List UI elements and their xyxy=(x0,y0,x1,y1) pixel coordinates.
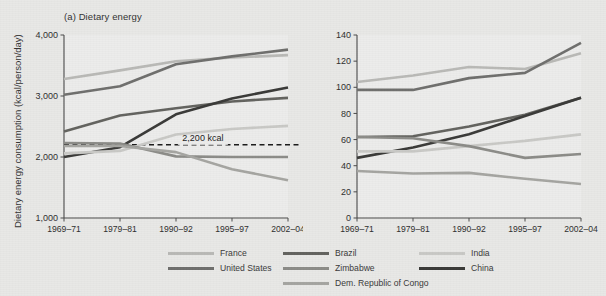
x-tick-label: 1995–97 xyxy=(508,224,542,234)
y-tick-label: 120 xyxy=(336,56,351,66)
chart-legend: FranceUnited States BrazilZimbabweDem. R… xyxy=(0,246,606,296)
x-tick-label: 1969–71 xyxy=(47,224,81,234)
x-tick-label: 1995–97 xyxy=(215,224,249,234)
legend-column-1: BrazilZimbabweDem. Republic of Congo xyxy=(283,246,429,291)
legend-item-label: China xyxy=(471,264,493,273)
x-tick-label: 2002–04 xyxy=(271,224,303,234)
legend-swatch-line-icon xyxy=(419,252,465,255)
y-tick-label: 1,000 xyxy=(35,213,58,223)
y-tick-label: 80 xyxy=(341,109,351,119)
y-tick-label: 140 xyxy=(336,30,351,40)
legend-item[interactable]: India xyxy=(419,246,493,260)
y-tick-label: 2,000 xyxy=(35,152,58,162)
x-tick-label: 1990–92 xyxy=(452,224,486,234)
chart-panel-dietary-energy: (a) Dietary energy Dietary energy consum… xyxy=(0,0,303,246)
legend-swatch-line-icon xyxy=(419,267,465,270)
legend-swatch-line-icon xyxy=(168,252,214,255)
x-tick-label: 1990–92 xyxy=(159,224,193,234)
y-tick-label: 4,000 xyxy=(35,30,58,40)
legend-column-0: FranceUnited States xyxy=(168,246,272,276)
legend-item-label: France xyxy=(220,249,247,258)
legend-item-label: Brazil xyxy=(335,249,357,258)
figure-root: (a) Dietary energy Dietary energy consum… xyxy=(0,0,606,296)
legend-item[interactable]: Zimbabwe xyxy=(283,261,429,275)
y-tick-label: 40 xyxy=(341,161,351,171)
legend-column-2: IndiaChina xyxy=(419,246,493,276)
legend-item-label: Zimbabwe xyxy=(335,264,375,273)
legend-item-label: United States xyxy=(220,264,272,273)
chart-panel-protein-consumption: (b) Protein consumption Protein consumpt… xyxy=(303,0,606,246)
y-tick-label: 100 xyxy=(336,82,351,92)
panel-a-plot: 1,0002,0003,0004,0001969–711979–811990–9… xyxy=(0,0,303,246)
legend-swatch-line-icon xyxy=(283,282,329,285)
legend-item-label: India xyxy=(471,249,490,258)
x-tick-label: 1979–81 xyxy=(103,224,137,234)
y-tick-label: 60 xyxy=(341,135,351,145)
panel-b-plot: 0204060801001201401969–711979–811990–921… xyxy=(303,0,606,246)
reference-line-label: 2,200 kcal xyxy=(182,133,223,143)
x-tick-label: 1979–81 xyxy=(396,224,430,234)
y-tick-label: 20 xyxy=(341,187,351,197)
legend-item-label: Dem. Republic of Congo xyxy=(335,279,429,288)
legend-item[interactable]: Dem. Republic of Congo xyxy=(283,276,429,290)
legend-item[interactable]: United States xyxy=(168,261,272,275)
legend-item[interactable]: Brazil xyxy=(283,246,429,260)
y-tick-label: 0 xyxy=(346,213,351,223)
x-tick-label: 2002–04 xyxy=(564,224,598,234)
x-tick-label: 1969–71 xyxy=(340,224,374,234)
legend-item[interactable]: China xyxy=(419,261,493,275)
legend-item[interactable]: France xyxy=(168,246,272,260)
legend-swatch-line-icon xyxy=(283,267,329,270)
y-tick-label: 3,000 xyxy=(35,91,58,101)
legend-swatch-line-icon xyxy=(283,252,329,255)
legend-swatch-line-icon xyxy=(168,267,214,270)
